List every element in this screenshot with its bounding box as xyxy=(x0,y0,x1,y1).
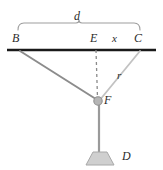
label-d-weight: D xyxy=(122,150,131,162)
statics-diagram: d B E x C r F D xyxy=(0,0,163,170)
label-c: C xyxy=(134,32,142,44)
label-r: r xyxy=(117,70,121,81)
label-b: B xyxy=(12,32,19,44)
label-x: x xyxy=(112,33,117,44)
label-d: d xyxy=(74,10,80,22)
cable-segment-bf xyxy=(20,51,99,101)
dashed-reference-ef xyxy=(96,50,98,98)
hanging-weight-d xyxy=(86,152,114,165)
label-f: F xyxy=(104,94,111,106)
pulley-ring-f xyxy=(94,97,102,105)
diagram-canvas xyxy=(0,0,163,170)
label-e: E xyxy=(90,32,97,44)
